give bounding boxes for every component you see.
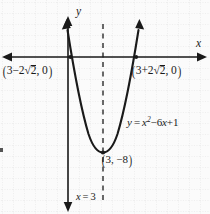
symmetry-value: 3 [90,191,95,202]
page-edge-mark [0,148,3,152]
left-root-radical-group: √2 [25,65,37,77]
radical-bar [160,65,165,66]
parabola-graph-figure: y x (3−2√2, 0) (3+2√2, 0) y = x2−6x+1 (3… [0,0,210,214]
x-axis-label: x [196,38,201,50]
grid-lines [0,0,210,214]
left-root-close-paren: ) [48,64,51,79]
equation-plus-one: +1 [167,116,179,128]
equation-label: y = x2−6x+1 [127,116,178,128]
left-root-point [68,55,72,59]
right-root-open-paren: ( [132,64,135,79]
equation-minus-six: −6 [151,116,163,128]
y-axis-label: y [76,6,81,18]
vertex-label: (3, −8) [101,153,132,167]
right-root-close-paren: ) [177,64,180,79]
vertex-open-paren: ( [102,153,105,167]
vertex-y: −8 [116,153,128,165]
left-root-zero: 0 [42,64,48,76]
vertex-close-paren: ) [128,153,131,167]
right-root-radical-group: √2 [154,65,166,77]
right-root-label: (3+2√2, 0) [131,64,181,79]
left-root-label: (3−2√2, 0) [2,64,52,79]
plot-canvas [0,0,210,214]
radical-bar [31,65,36,66]
right-root-zero: 0 [171,64,177,76]
axis-of-symmetry-label: x = 3 [76,192,96,203]
left-root-open-paren: ( [3,64,6,79]
equation-equals: = [132,116,142,128]
symmetry-equals: = [81,191,91,202]
right-root-point [134,55,138,59]
